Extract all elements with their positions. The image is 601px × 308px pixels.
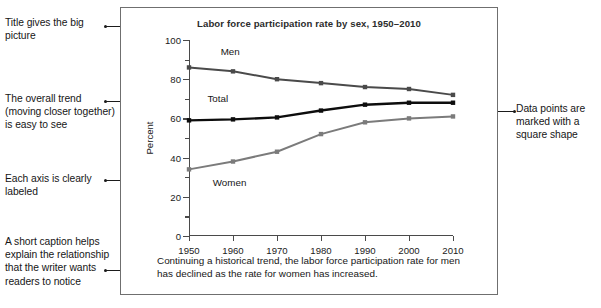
- figure-annotated-diagram: Title gives the big picture The overall …: [0, 0, 601, 308]
- annotation-axis: Each axis is clearly labeled: [5, 172, 117, 198]
- data-point-marker: [187, 167, 191, 171]
- data-point-marker: [231, 69, 235, 73]
- x-tick: [233, 236, 234, 241]
- x-tick: [365, 236, 366, 241]
- series-label-women: Women: [213, 177, 247, 188]
- data-point-marker: [451, 114, 455, 118]
- y-tick-label: 80: [170, 74, 181, 85]
- data-point-marker: [275, 77, 279, 81]
- chart-plot-area: Percent 02040608010019501960197019801990…: [189, 40, 453, 236]
- data-point-marker: [275, 150, 279, 154]
- data-point-marker: [451, 93, 455, 97]
- data-point-marker: [187, 65, 191, 69]
- x-tick: [189, 236, 190, 241]
- x-tick: [453, 236, 454, 241]
- chart-series-svg: [189, 40, 453, 236]
- series-label-men: Men: [221, 46, 240, 57]
- data-point-marker: [319, 81, 323, 85]
- x-tick: [277, 236, 278, 241]
- annotation-caption: A short caption helps explain the relati…: [5, 235, 117, 288]
- annotation-title: Title gives the big picture: [5, 16, 117, 42]
- figure-box: Labor force participation rate by sex, 1…: [120, 7, 498, 295]
- x-tick: [409, 236, 410, 241]
- annotation-trend: The overall trend (moving closer togethe…: [5, 92, 117, 132]
- y-tick-label: 0: [176, 231, 181, 242]
- y-tick-label: 100: [165, 35, 181, 46]
- annotation-markers: Data points are marked with a square sha…: [516, 102, 601, 142]
- data-point-marker: [231, 117, 235, 121]
- y-tick-label: 40: [170, 152, 181, 163]
- data-point-marker: [319, 132, 323, 136]
- series-label-total: Total: [207, 93, 228, 104]
- data-point-marker: [407, 87, 411, 91]
- data-point-marker: [451, 101, 455, 105]
- y-tick-label: 20: [170, 191, 181, 202]
- data-point-marker: [231, 159, 235, 163]
- data-point-marker: [319, 108, 323, 112]
- data-point-marker: [187, 118, 191, 122]
- data-point-marker: [363, 102, 367, 106]
- data-point-marker: [407, 116, 411, 120]
- y-axis-label: Percent: [144, 121, 155, 154]
- figure-caption: Continuing a historical trend, the labor…: [157, 254, 477, 280]
- data-point-marker: [275, 115, 279, 119]
- chart-title: Labor force participation rate by sex, 1…: [121, 18, 497, 29]
- data-point-marker: [407, 101, 411, 105]
- y-tick-label: 60: [170, 113, 181, 124]
- data-point-marker: [363, 120, 367, 124]
- data-point-marker: [363, 85, 367, 89]
- x-tick: [321, 236, 322, 241]
- series-line-women: [189, 116, 453, 169]
